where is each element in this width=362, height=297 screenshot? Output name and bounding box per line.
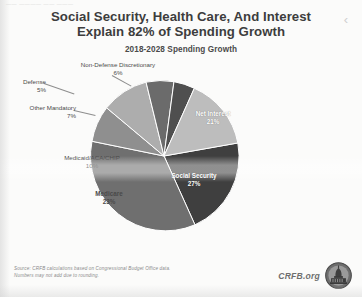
pie-label-medicare-name: Medicare (95, 190, 122, 197)
brand-block: CRFB.org (278, 262, 352, 289)
pie-label-net-interest: Net Interest 21% (183, 110, 243, 126)
pie-chart: Net Interest 21% Social Security 27% Med… (0, 56, 362, 256)
pie-label-medicaid: Medicaid/ACA/CHIP 10% (56, 154, 128, 170)
pie-label-social-security: Social Security 27% (159, 172, 229, 188)
pie-label-non-defense-discretionary: Non-Defense Discretionary 6% (62, 61, 174, 77)
pie-label-medicare: Medicare 23% (85, 190, 133, 206)
pie-label-medicaid-pct: 10% (56, 162, 128, 170)
pie-label-defense: Defense 5% (6, 78, 46, 94)
chart-footnote: Source: CRFB calculations based on Congr… (14, 266, 171, 279)
pie-label-social-security-pct: 27% (159, 180, 229, 188)
leader-line-defense (44, 83, 75, 94)
scan-ghost-text: —— ———— —— ——— (6, 1, 74, 7)
pie-label-medicare-pct: 23% (85, 198, 133, 206)
chart-title-line2: Explain 82% of Spending Growth (0, 24, 362, 39)
chart-subtitle: 2018-2028 Spending Growth (0, 45, 362, 54)
pie-label-non-defense-pct: 6% (62, 69, 174, 77)
pie-label-net-interest-pct: 21% (183, 118, 243, 126)
pie-label-social-security-name: Social Security (171, 172, 216, 179)
chart-title-line1: Social Security, Health Care, And Intere… (51, 9, 311, 24)
chart-title: Social Security, Health Care, And Intere… (0, 9, 362, 39)
chevron-left-icon: ‹ (344, 12, 348, 27)
pie-label-other-mandatory-name: Other Mandatory (30, 104, 76, 111)
pie-label-net-interest-name: Net Interest (196, 110, 231, 117)
footnote-source: Source: CRFB calculations based on Congr… (14, 266, 171, 271)
pie-label-non-defense-name: Non-Defense Discretionary (81, 61, 155, 68)
brand-url-label: CRFB.org (278, 271, 320, 281)
pie-label-medicaid-name: Medicaid/ACA/CHIP (64, 154, 120, 161)
pie-label-other-mandatory: Other Mandatory 7% (2, 104, 76, 120)
pie-label-defense-pct: 5% (6, 86, 46, 94)
pie-label-defense-name: Defense (23, 78, 46, 85)
capitol-dome-logo-icon (325, 262, 352, 289)
footnote-rounding-note: Numbers may not add due to rounding. (14, 273, 171, 280)
pie-label-other-mandatory-pct: 7% (2, 112, 76, 120)
chart-page: —— ———— —— ——— ‹ Social Security, Health… (0, 0, 362, 297)
